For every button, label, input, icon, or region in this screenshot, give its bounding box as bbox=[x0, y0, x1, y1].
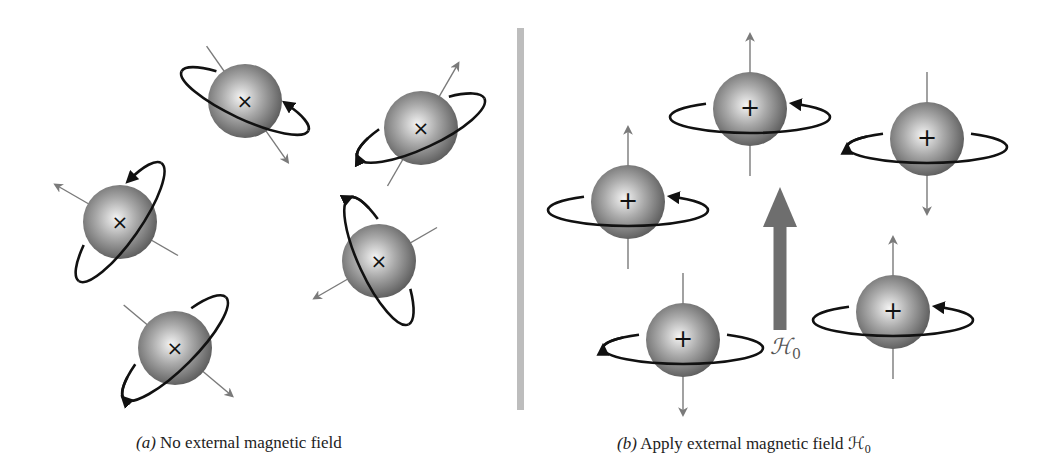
caption-a-prefix: (a) bbox=[136, 433, 156, 452]
cross-sign-icon: × bbox=[112, 210, 129, 234]
caption-b-field-subscript: 0 bbox=[865, 442, 871, 456]
panel-divider bbox=[517, 28, 524, 410]
plus-sign-icon: + bbox=[618, 187, 638, 215]
caption-panel-a: (a) No external magnetic field bbox=[136, 433, 342, 453]
field-label-h0: ℋ0 bbox=[770, 334, 801, 362]
cross-sign-icon: × bbox=[237, 89, 254, 113]
plus-sign-icon: + bbox=[740, 94, 760, 122]
cross-sign-icon: × bbox=[371, 249, 388, 273]
caption-b-prefix: (b) bbox=[617, 434, 637, 453]
caption-a-text: No external magnetic field bbox=[156, 433, 342, 452]
plus-sign-icon: + bbox=[673, 325, 693, 353]
plus-sign-icon: + bbox=[917, 124, 937, 152]
cross-sign-icon: × bbox=[413, 116, 430, 140]
plus-sign-icon: + bbox=[883, 297, 903, 325]
field-subscript: 0 bbox=[792, 346, 801, 362]
cross-sign-icon: × bbox=[167, 336, 184, 360]
caption-b-field-symbol: ℋ bbox=[848, 434, 865, 453]
field-symbol: ℋ bbox=[770, 334, 792, 359]
caption-panel-b: (b) Apply external magnetic field ℋ0 bbox=[617, 433, 871, 457]
nuclear-spin-diagram: ××××× +++++ bbox=[0, 0, 1046, 469]
divider-bar bbox=[517, 28, 524, 410]
caption-b-text: Apply external magnetic field bbox=[637, 434, 848, 453]
